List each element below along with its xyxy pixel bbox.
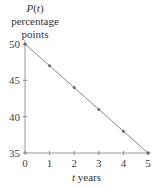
x-axis-label: t years: [25, 171, 148, 183]
x-tick-label: 2: [71, 157, 77, 169]
data-point: [48, 64, 51, 67]
y-tick-label: 45: [9, 74, 21, 86]
data-line: [25, 44, 148, 153]
x-tick-label: 1: [47, 157, 53, 169]
x-tick-label: 3: [96, 157, 102, 169]
data-point: [73, 86, 76, 89]
line-chart: 35404550012345: [0, 0, 156, 187]
data-point: [24, 43, 27, 46]
y-tick-label: 40: [9, 111, 21, 123]
x-tick-label: 5: [145, 157, 151, 169]
data-point: [97, 108, 100, 111]
y-tick-label: 35: [9, 147, 21, 159]
data-point: [147, 152, 150, 155]
x-tick-label: 0: [22, 157, 28, 169]
data-point: [122, 130, 125, 133]
x-tick-label: 4: [121, 157, 127, 169]
y-tick-label: 50: [9, 38, 21, 50]
